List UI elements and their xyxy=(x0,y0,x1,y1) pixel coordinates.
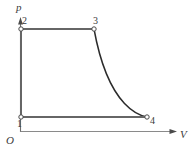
process-3-4-curve xyxy=(94,29,147,117)
state-point-label-1: 1 xyxy=(17,119,22,129)
state-point-marker-3 xyxy=(92,27,96,31)
state-point-label-3: 3 xyxy=(93,16,98,26)
x-axis-arrowhead-icon xyxy=(170,129,178,134)
y-axis-label: p xyxy=(16,2,22,13)
state-point-marker-2 xyxy=(19,27,23,31)
x-axis-label: V xyxy=(180,129,187,140)
x-axis xyxy=(21,129,178,134)
origin-label: O xyxy=(6,135,14,146)
state-point-label-2: 2 xyxy=(22,16,27,26)
pv-diagram-figure: p V O 1 2 3 4 xyxy=(0,0,192,154)
state-point-marker-4 xyxy=(145,115,149,119)
state-point-label-4: 4 xyxy=(150,116,155,126)
